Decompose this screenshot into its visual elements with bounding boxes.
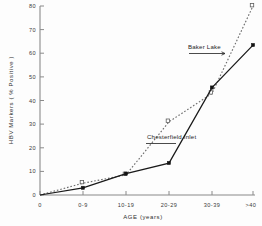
y-tick-label: 80 [29, 3, 36, 9]
x-tick-label: 20-29 [161, 202, 178, 208]
baker-lake-point [250, 4, 253, 7]
baker-lake-leader [189, 52, 225, 55]
x-tick-label: 30-39 [204, 202, 221, 208]
hbv-markers-line-chart: 0 10 20 30 40 50 60 70 80 0 0-9 10-19 20… [0, 0, 262, 226]
chesterfield-point [124, 172, 127, 175]
y-axis-ticks [40, 6, 44, 195]
y-tick-label: 20 [29, 145, 36, 151]
y-tick-label: 40 [29, 98, 36, 104]
x-tick-label: 0-9 [78, 202, 87, 208]
x-tick-label: 0 [38, 202, 42, 208]
y-tick-label: 30 [29, 121, 36, 127]
chesterfield-point [167, 161, 170, 164]
chesterfield-point [81, 186, 84, 189]
annotation-chesterfield-inlet: Chesterfield Inlet [147, 133, 196, 140]
baker-lake-point [80, 180, 83, 183]
chesterfield-point [210, 86, 213, 89]
y-tick-label: 60 [29, 50, 36, 56]
y-tick-label: 0 [32, 192, 36, 198]
y-axis-title: HBV Markers ( % Positive ) [8, 56, 14, 144]
chart-container: 0 10 20 30 40 50 60 70 80 0 0-9 10-19 20… [0, 0, 262, 226]
x-tick-label: 10-19 [118, 202, 135, 208]
annotation-baker-lake: Baker Lake [188, 43, 221, 50]
x-axis-title: AGE (years) [123, 214, 163, 220]
baker-lake-line [40, 6, 253, 195]
series-baker-lake [40, 4, 254, 196]
y-tick-label: 10 [29, 168, 36, 174]
x-axis-tick-labels: 0 0-9 10-19 20-29 30-39 >40 [38, 202, 256, 208]
y-tick-label: 70 [29, 27, 36, 33]
y-tick-label: 50 [29, 74, 36, 80]
x-axis-ticks [40, 191, 253, 195]
chesterfield-inlet-line [40, 45, 253, 195]
series-chesterfield-inlet [40, 43, 255, 195]
x-tick-label: >40 [246, 202, 257, 208]
y-axis-tick-labels: 0 10 20 30 40 50 60 70 80 [29, 3, 36, 198]
chesterfield-point [251, 43, 254, 46]
baker-lake-point [166, 119, 169, 122]
